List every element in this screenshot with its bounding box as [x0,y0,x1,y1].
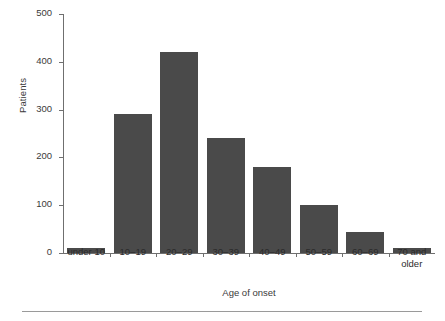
x-axis-category-label: under 10 [63,246,110,258]
bottom-rule-divider [22,311,422,312]
bar [207,138,245,253]
y-axis-tick: 100 [59,205,63,206]
plot-area: 0100200300400500 [63,14,435,253]
y-axis-tick-label: 200 [36,150,52,161]
y-axis-line [63,14,64,253]
y-axis-tick-label: 300 [36,103,52,114]
y-axis-tick: 300 [59,110,63,111]
x-axis-category-label: 10–19 [110,246,157,258]
y-axis-tick: 200 [59,157,63,158]
bar [253,167,291,253]
bar [114,114,152,253]
y-axis-title: Patients [14,33,32,113]
x-axis-category-label: 40–49 [249,246,296,258]
x-axis-title: Age of onset [63,287,435,298]
y-axis-tick-label: 0 [47,246,52,257]
x-axis-category-label: 60–69 [342,246,389,258]
x-axis-category-label: 30–39 [203,246,250,258]
y-axis-tick-label: 100 [36,198,52,209]
bar-chart-figure: Patients 0100200300400500 under 1010–192… [0,0,445,321]
y-axis-tick-label: 500 [36,7,52,18]
x-axis-category-label: 20–29 [156,246,203,258]
y-axis-tick-label: 400 [36,55,52,66]
y-axis-tick: 500 [59,14,63,15]
x-axis-category-label: 70 and older [389,246,436,269]
x-axis-category-label: 50–59 [296,246,343,258]
bar [160,52,198,253]
y-axis-tick: 400 [59,62,63,63]
